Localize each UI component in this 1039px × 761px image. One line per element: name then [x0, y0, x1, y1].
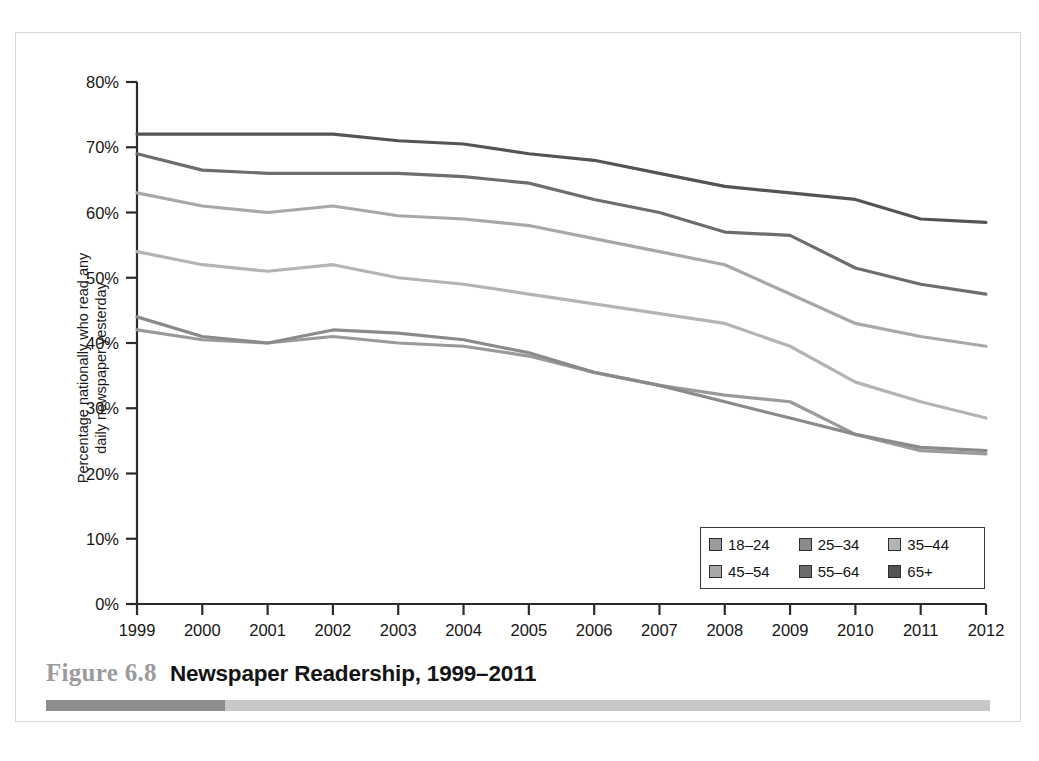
x-axis-tick-label: 2009	[772, 621, 809, 639]
legend-item-45-54: 45–54	[709, 564, 799, 579]
y-axis-tick-label: 60%	[86, 204, 119, 222]
legend-label-55-64: 55–64	[818, 564, 860, 579]
figure-caption: Figure 6.8 Newspaper Readership, 1999–20…	[46, 659, 536, 687]
series-line-35-44	[137, 252, 986, 418]
y-axis-tick-label: 40%	[86, 334, 119, 352]
legend-swatch-35-44	[888, 538, 901, 551]
legend-label-45-54: 45–54	[728, 564, 770, 579]
y-axis-tick-label: 20%	[86, 465, 119, 483]
y-axis-tick-label: 50%	[86, 269, 119, 287]
legend-item-25-34: 25–34	[799, 537, 889, 552]
x-axis-tick-label: 2012	[968, 621, 1005, 639]
y-axis-tick-label: 70%	[86, 138, 119, 156]
caption-rule-light-segment	[225, 700, 990, 711]
legend-label-18-24: 18–24	[728, 537, 770, 552]
legend-swatch-18-24	[709, 538, 722, 551]
x-axis-tick-label: 2006	[576, 621, 613, 639]
x-axis-tick-label: 2005	[510, 621, 547, 639]
x-axis-tick-label: 2000	[184, 621, 221, 639]
x-axis-tick-label: 1999	[119, 621, 156, 639]
caption-rule-dark-segment	[46, 700, 225, 711]
legend-swatch-65-plus	[888, 565, 901, 578]
x-axis-tick-label: 2003	[380, 621, 417, 639]
legend-label-25-34: 25–34	[818, 537, 860, 552]
series-line-55-64	[137, 154, 986, 294]
x-axis-tick-label: 2011	[903, 621, 938, 639]
figure-title: Newspaper Readership, 1999–2011	[170, 661, 537, 687]
x-axis-tick-label: 2007	[641, 621, 678, 639]
series-line-65-	[137, 134, 986, 222]
y-axis-tick-label: 80%	[86, 73, 119, 91]
legend-label-35-44: 35–44	[907, 537, 949, 552]
legend-swatch-55-64	[799, 565, 812, 578]
legend-item-35-44: 35–44	[888, 537, 978, 552]
chart-legend: 18–24 25–34 35–44 45–54 55–64 65+	[700, 527, 985, 589]
legend-item-55-64: 55–64	[799, 564, 889, 579]
x-axis-tick-label: 2008	[706, 621, 743, 639]
y-axis-tick-label: 10%	[86, 530, 119, 548]
y-axis-tick-label: 0%	[95, 595, 119, 613]
legend-item-18-24: 18–24	[709, 537, 799, 552]
x-axis-tick-label: 2010	[837, 621, 874, 639]
figure-container: Percentage nationally who read anydaily …	[0, 0, 1039, 761]
x-axis-tick-label: 2002	[315, 621, 352, 639]
figure-number: Figure 6.8	[46, 659, 157, 687]
legend-item-65-plus: 65+	[888, 564, 978, 579]
x-axis-tick-label: 2004	[445, 621, 482, 639]
legend-swatch-25-34	[799, 538, 812, 551]
y-axis-tick-label: 30%	[86, 399, 119, 417]
legend-swatch-45-54	[709, 565, 722, 578]
x-axis-tick-label: 2001	[249, 621, 286, 639]
legend-label-65-plus: 65+	[907, 564, 932, 579]
caption-rule	[46, 700, 990, 711]
